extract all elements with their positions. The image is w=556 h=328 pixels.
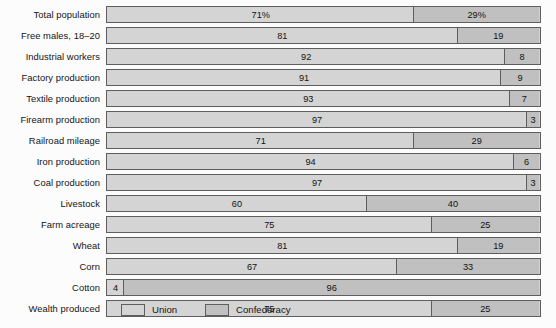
stacked-bar: 928 bbox=[106, 48, 541, 65]
stacked-bar: 8119 bbox=[106, 27, 541, 44]
chart-row: Railroad mileage7129 bbox=[0, 132, 556, 149]
bar-segment-confederacy: 19 bbox=[457, 238, 539, 253]
bar-segment-union: 94 bbox=[107, 154, 514, 169]
bar-segment-union: 97 bbox=[107, 112, 527, 127]
legend-swatch-icon bbox=[121, 304, 145, 316]
segment-value-union: 93 bbox=[303, 94, 313, 104]
stacked-bar: 919 bbox=[106, 69, 541, 86]
bar-segment-confederacy: 29 bbox=[413, 133, 539, 148]
segment-value-confederacy: 19 bbox=[493, 31, 503, 41]
bar-segment-confederacy: 25 bbox=[431, 217, 539, 232]
legend-item[interactable]: Confederacy bbox=[205, 304, 290, 316]
chart-row: Industrial workers928 bbox=[0, 48, 556, 65]
bar-segment-union: 97 bbox=[107, 175, 527, 190]
segment-value-confederacy: 25 bbox=[480, 304, 490, 314]
bar-segment-confederacy: 25 bbox=[431, 301, 539, 316]
segment-value-confederacy: 19 bbox=[493, 241, 503, 251]
segment-value-union: 94 bbox=[305, 157, 315, 167]
segment-value-union: 81 bbox=[277, 31, 287, 41]
bar-segment-union: 60 bbox=[107, 196, 367, 211]
row-label: Free males, 18–20 bbox=[0, 27, 106, 44]
stacked-bar: 7525 bbox=[106, 216, 541, 233]
stacked-bar: 8119 bbox=[106, 237, 541, 254]
row-label: Cotton bbox=[0, 279, 106, 296]
row-label: Factory production bbox=[0, 69, 106, 86]
stacked-bar: 973 bbox=[106, 174, 541, 191]
segment-value-confederacy: 3 bbox=[530, 115, 535, 125]
stacked-bar: 6733 bbox=[106, 258, 541, 275]
bar-segment-union: 71% bbox=[107, 7, 414, 22]
chart-rows: Total population71%29%Free males, 18–208… bbox=[0, 6, 556, 321]
segment-value-union: 91 bbox=[299, 73, 309, 83]
row-label: Industrial workers bbox=[0, 48, 106, 65]
row-label: Wheat bbox=[0, 237, 106, 254]
bar-segment-confederacy: 33 bbox=[396, 259, 539, 274]
stacked-bar: 496 bbox=[106, 279, 541, 296]
segment-value-union: 60 bbox=[232, 199, 242, 209]
segment-value-confederacy: 40 bbox=[448, 199, 458, 209]
chart-row: Farm acreage7525 bbox=[0, 216, 556, 233]
bar-segment-union: 67 bbox=[107, 259, 397, 274]
segment-value-confederacy: 25 bbox=[480, 220, 490, 230]
bar-segment-confederacy: 29% bbox=[413, 7, 539, 22]
segment-value-confederacy: 6 bbox=[524, 157, 529, 167]
stacked-bar: 7129 bbox=[106, 132, 541, 149]
bar-segment-union: 71 bbox=[107, 133, 414, 148]
segment-value-confederacy: 29% bbox=[468, 10, 486, 20]
segment-value-union: 81 bbox=[277, 241, 287, 251]
row-label: Coal production bbox=[0, 174, 106, 191]
stacked-bar: 946 bbox=[106, 153, 541, 170]
segment-value-union: 4 bbox=[113, 283, 118, 293]
legend-label: Union bbox=[152, 304, 177, 316]
chart-legend: UnionConfederacy bbox=[121, 303, 318, 317]
row-label: Total population bbox=[0, 6, 106, 23]
bar-segment-confederacy: 19 bbox=[457, 28, 539, 43]
bar-segment-confederacy: 6 bbox=[513, 154, 539, 169]
row-label: Corn bbox=[0, 258, 106, 275]
bar-segment-union: 75 bbox=[107, 217, 432, 232]
bar-segment-union: 81 bbox=[107, 238, 458, 253]
bar-segment-confederacy: 40 bbox=[366, 196, 539, 211]
stacked-bar: 973 bbox=[106, 111, 541, 128]
bar-segment-union: 91 bbox=[107, 70, 501, 85]
row-label: Farm acreage bbox=[0, 216, 106, 233]
bar-segment-confederacy: 3 bbox=[526, 112, 539, 127]
segment-value-confederacy: 7 bbox=[522, 94, 527, 104]
segment-value-union: 71% bbox=[252, 10, 270, 20]
segment-value-union: 92 bbox=[301, 52, 311, 62]
stacked-bar: 937 bbox=[106, 90, 541, 107]
chart-row: Cotton496 bbox=[0, 279, 556, 296]
bar-segment-confederacy: 7 bbox=[509, 91, 539, 106]
segment-value-confederacy: 33 bbox=[463, 262, 473, 272]
legend-item[interactable]: Union bbox=[121, 304, 177, 316]
chart-row: Textile production937 bbox=[0, 90, 556, 107]
row-label: Iron production bbox=[0, 153, 106, 170]
segment-value-union: 97 bbox=[312, 115, 322, 125]
row-label: Livestock bbox=[0, 195, 106, 212]
chart-row: Wheat8119 bbox=[0, 237, 556, 254]
resource-comparison-chart: Total population71%29%Free males, 18–208… bbox=[0, 0, 556, 328]
chart-row: Livestock6040 bbox=[0, 195, 556, 212]
chart-row: Factory production919 bbox=[0, 69, 556, 86]
bar-segment-confederacy: 3 bbox=[526, 175, 539, 190]
legend-swatch-icon bbox=[205, 304, 229, 316]
stacked-bar: 71%29% bbox=[106, 6, 541, 23]
bar-segment-confederacy: 9 bbox=[500, 70, 539, 85]
chart-row: Iron production946 bbox=[0, 153, 556, 170]
segment-value-confederacy: 96 bbox=[327, 283, 337, 293]
bar-segment-confederacy: 96 bbox=[123, 280, 539, 295]
segment-value-confederacy: 9 bbox=[517, 73, 522, 83]
stacked-bar: 6040 bbox=[106, 195, 541, 212]
segment-value-confederacy: 3 bbox=[530, 178, 535, 188]
row-label: Railroad mileage bbox=[0, 132, 106, 149]
row-label: Wealth produced bbox=[0, 300, 106, 317]
bar-segment-union: 81 bbox=[107, 28, 458, 43]
chart-row: Total population71%29% bbox=[0, 6, 556, 23]
row-label: Firearm production bbox=[0, 111, 106, 128]
segment-value-union: 75 bbox=[264, 220, 274, 230]
chart-row: Corn6733 bbox=[0, 258, 556, 275]
bar-segment-union: 93 bbox=[107, 91, 510, 106]
legend-label: Confederacy bbox=[236, 304, 290, 316]
segment-value-union: 67 bbox=[247, 262, 257, 272]
segment-value-union: 97 bbox=[312, 178, 322, 188]
